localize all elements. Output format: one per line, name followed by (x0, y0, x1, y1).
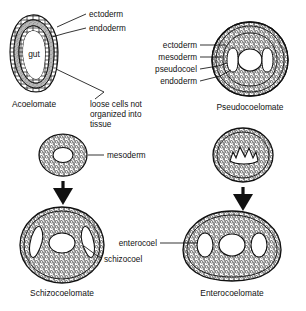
label-enterocoel: enterocoel (119, 239, 157, 248)
label-endoderm-top: endoderm (89, 24, 126, 33)
label-pseudo-endoderm: endoderm (160, 77, 197, 86)
label-pseudo-mesoderm: mesoderm (158, 53, 197, 62)
pseudocoelomate-cavity-left (227, 48, 238, 72)
caption-acoelomate: Acoelomate (12, 99, 57, 109)
label-loose-cells-line1: loose cells not (90, 100, 143, 109)
panel-pseudocoelomate: ectoderm mesoderm pseudocoel endoderm Ps… (155, 22, 288, 112)
caption-pseudocoelomate: Pseudocoelomate (216, 102, 283, 112)
label-gut: gut (28, 49, 40, 59)
leader-endoderm-top (52, 28, 86, 37)
label-pseudo-ectoderm: ectoderm (163, 41, 197, 50)
mesoderm-ring-cavity (53, 148, 73, 163)
diagram-canvas: gut ectoderm endoderm Acoelomate loose c… (0, 0, 306, 311)
panel-coelom-forming-ring (213, 128, 273, 202)
label-ectoderm-top: ectoderm (89, 10, 123, 19)
enterocoelomate-gut (219, 234, 245, 256)
caption-schizocoelomate: Schizocoelomate (30, 288, 94, 298)
label-mesoderm: mesoderm (107, 151, 146, 160)
caption-enterocoelomate: Enterocoelomate (200, 288, 264, 298)
enterocoelomate-cavity-right (251, 233, 267, 257)
label-schizocoel: schizocoel (104, 255, 142, 264)
body-cavity-diagram: gut ectoderm endoderm Acoelomate loose c… (0, 0, 306, 311)
panel-mesoderm-ring: mesoderm (39, 134, 146, 196)
enterocoelomate-cavity-left (197, 233, 213, 257)
label-loose-cells-line2: organized into (90, 110, 142, 119)
panel-enterocoelomate: enterocoel Enterocoelomate (119, 211, 281, 298)
panel-schizocoelomate: schizocoel Schizocoelomate (20, 207, 142, 298)
label-loose-cells-line3: tissue (90, 120, 112, 129)
pseudocoelomate-body (212, 22, 288, 96)
schizocoelomate-gut (49, 233, 75, 253)
pseudocoelomate-gut (238, 49, 262, 71)
leader-ectoderm-top (57, 14, 86, 27)
panel-acoelomate: gut ectoderm endoderm Acoelomate loose c… (10, 10, 143, 129)
leader-loose-cells (56, 69, 104, 99)
pseudocoelomate-cavity-right (262, 48, 273, 72)
label-pseudo-pseudocoel: pseudocoel (155, 65, 197, 74)
